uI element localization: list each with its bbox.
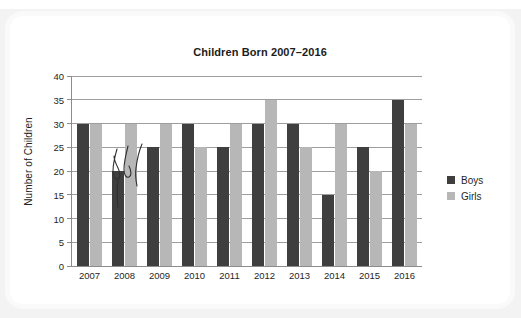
bars-layer [72,76,422,266]
y-tick-label: 25 [53,142,64,153]
page-top-strip [0,0,521,9]
bar-group [322,76,348,266]
bar-girls-2015[interactable] [370,171,383,266]
plot-wrapper: 0510152025303540 20072008200920102011201… [72,76,422,266]
x-tick-label-2014: 2014 [324,270,345,281]
x-tick-label-2007: 2007 [79,270,100,281]
bar-girls-2012[interactable] [265,100,278,266]
y-axis-title: Number of Children [23,82,34,242]
legend-label: Girls [461,191,482,202]
bar-boys-2015[interactable] [357,147,370,266]
bar-group [217,76,243,266]
x-tick-label-2010: 2010 [184,270,205,281]
bar-girls-2010[interactable] [195,147,208,266]
bar-girls-2009[interactable] [160,124,173,267]
y-tick-label: 0 [59,261,64,272]
bar-group [357,76,383,266]
bar-boys-2007[interactable] [77,124,90,267]
bar-girls-2014[interactable] [335,124,348,267]
bar-girls-2011[interactable] [230,124,243,267]
y-tick-label: 15 [53,189,64,200]
y-tick-label: 30 [53,118,64,129]
bar-boys-2012[interactable] [252,124,265,267]
bar-group [112,76,138,266]
bar-group [392,76,418,266]
x-tick-label-2013: 2013 [289,270,310,281]
bar-girls-2013[interactable] [300,147,313,266]
bar-boys-2011[interactable] [217,147,230,266]
x-tick-label-2011: 2011 [219,270,239,281]
y-tick-label: 5 [59,237,64,248]
y-tick-label: 40 [53,71,64,82]
x-tick-label-2008: 2008 [114,270,135,281]
bar-boys-2016[interactable] [392,100,405,266]
legend-label: Boys [461,175,483,186]
bar-girls-2008[interactable] [125,124,138,267]
bar-group [182,76,208,266]
chart-legend: BoysGirls [447,172,507,204]
chart-title: Children Born 2007–2016 [10,46,510,58]
legend-swatch-icon [447,192,455,200]
bar-boys-2010[interactable] [182,124,195,267]
bar-boys-2013[interactable] [287,124,300,267]
bar-boys-2009[interactable] [147,147,160,266]
bar-group [252,76,278,266]
x-tick-label-2015: 2015 [359,270,380,281]
legend-swatch-icon [447,176,455,184]
bar-girls-2016[interactable] [405,124,418,267]
x-tick-label-2012: 2012 [254,270,275,281]
bar-boys-2014[interactable] [322,195,335,266]
bar-group [77,76,103,266]
bar-boys-2008[interactable] [112,171,125,266]
y-tick-label: 35 [53,94,64,105]
bar-group [287,76,313,266]
x-tick-label-2009: 2009 [149,270,170,281]
y-tick-label: 20 [53,166,64,177]
x-axis-line [71,266,422,267]
chart-page: Children Born 2007–2016 Number of Childr… [0,0,521,318]
y-tick-label: 10 [53,213,64,224]
x-tick-label-2016: 2016 [394,270,415,281]
legend-item-girls[interactable]: Girls [447,188,507,204]
legend-item-boys[interactable]: Boys [447,172,507,188]
chart-card: Children Born 2007–2016 Number of Childr… [10,16,510,304]
bar-girls-2007[interactable] [90,124,103,267]
bar-group [147,76,173,266]
